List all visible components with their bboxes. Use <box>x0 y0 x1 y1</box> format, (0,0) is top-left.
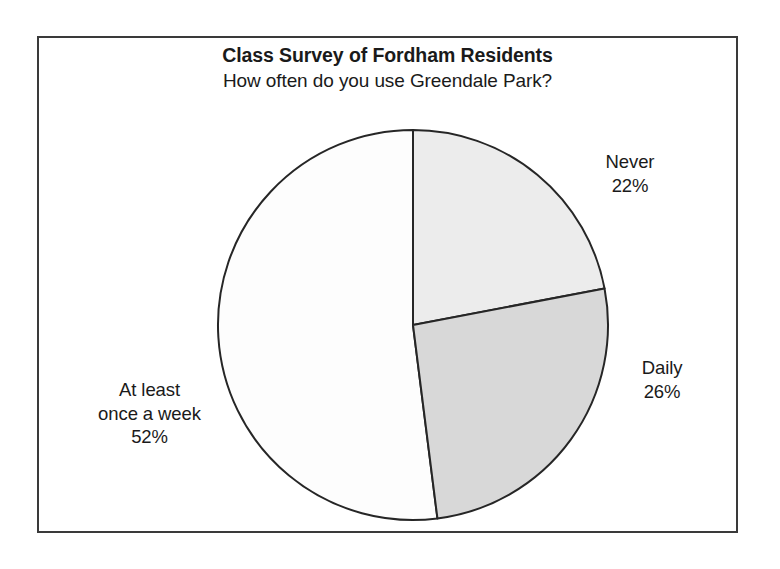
chart-title: Class Survey of Fordham Residents <box>37 46 738 66</box>
pie-label-never: Never 22% <box>575 150 685 197</box>
pie-label-daily-name: Daily <box>612 356 712 380</box>
pie-label-week-name-line2: once a week <box>57 402 242 426</box>
pie-label-week-name-line1: At least <box>57 378 242 402</box>
pie-label-week-value: 52% <box>57 425 242 449</box>
pie-label-never-name: Never <box>575 150 685 174</box>
pie-label-never-value: 22% <box>575 174 685 198</box>
chart-subtitle: How often do you use Greendale Park? <box>37 71 738 90</box>
pie-label-daily-value: 26% <box>612 380 712 404</box>
pie-label-at-least-once-a-week: At least once a week 52% <box>57 378 242 449</box>
chart-title-block: Class Survey of Fordham Residents How of… <box>37 46 738 90</box>
pie-label-daily: Daily 26% <box>612 356 712 403</box>
